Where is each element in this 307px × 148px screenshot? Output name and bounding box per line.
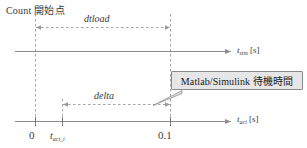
t-act-i-subscript: act_i <box>53 136 65 142</box>
act-axis-subscript: act <box>240 119 247 125</box>
callout-leader-pointer <box>153 91 182 106</box>
timing-diagram: Count 開始点 dtload delta tsim [s] tact [s]… <box>0 0 307 148</box>
sim-axis-unit: [s] <box>250 45 260 55</box>
sim-time-axis-label: tsim [s] <box>237 45 260 55</box>
act-axis-unit: [s] <box>249 114 259 124</box>
tick-label-origin: 0 <box>29 129 35 141</box>
count-start-label: Count 開始点 <box>6 2 65 17</box>
callout-box-wait-time: Matlab/Simulink 待機時間 <box>171 71 303 90</box>
tick-label-zero-point-one: 0.1 <box>158 129 172 141</box>
act-time-axis-label: tact [s] <box>237 114 259 124</box>
callout-text: Matlab/Simulink 待機時間 <box>181 73 293 88</box>
dimension-label-dtload: dtload <box>84 13 110 24</box>
tick-label-t-act-i: tact_i <box>50 130 65 141</box>
dimension-label-delta: delta <box>94 90 114 101</box>
sim-axis-subscript: sim <box>240 50 248 56</box>
